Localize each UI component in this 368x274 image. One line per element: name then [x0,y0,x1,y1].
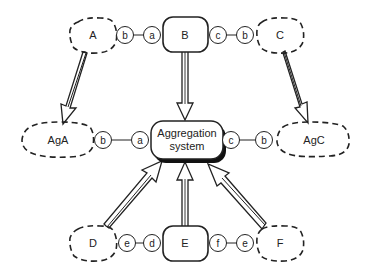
svg-text:b: b [261,135,267,146]
agent-a[interactable]: A [70,18,117,53]
arrow-d-to-aggregation [104,161,162,228]
arrow-f-to-aggregation [208,164,266,229]
arrow-c-to-agc [283,51,308,123]
aggregation-label-line2: system [170,140,205,152]
agent-b-label: B [181,29,188,41]
port-bot-right-2[interactable]: e [237,235,254,252]
port-top-left-2[interactable]: a [144,27,161,44]
aggregate-aga[interactable]: AgA [22,122,94,157]
port-mid-right-2[interactable]: b [256,132,273,149]
agent-d[interactable]: D [70,226,117,261]
arrow-b-to-aggregation [177,52,193,120]
svg-text:e: e [242,238,248,249]
svg-text:c: c [216,30,221,41]
aggregation-label-line1: Aggregation [157,127,216,139]
svg-text:a: a [149,30,155,41]
agent-b[interactable]: B [163,17,208,52]
port-top-right-2[interactable]: b [237,27,254,44]
agent-a-label: A [89,29,97,41]
port-bot-right-1[interactable]: f [210,235,227,252]
svg-text:b: b [242,30,248,41]
port-mid-left-1[interactable]: b [95,132,112,149]
port-bot-left-1[interactable]: e [119,235,136,252]
svg-text:a: a [137,135,143,146]
aggregation-system[interactable]: Aggregation system [151,121,224,160]
agent-f-label: F [277,237,284,249]
port-mid-left-2[interactable]: a [132,132,149,149]
agent-c[interactable]: C [257,18,304,53]
port-bot-left-2[interactable]: d [144,235,161,252]
aggregation-diagram: A b a B c b C AgA b a [0,0,368,274]
arrow-e-to-aggregation [177,162,193,227]
svg-text:e: e [124,238,130,249]
agent-f[interactable]: F [257,226,304,261]
svg-text:b: b [122,30,128,41]
svg-text:c: c [229,135,234,146]
agent-e-label: E [181,237,188,249]
agent-e[interactable]: E [163,226,208,261]
port-top-left-1[interactable]: b [117,27,134,44]
arrow-a-to-aga [61,52,87,124]
aga-label: AgA [48,134,69,146]
svg-text:f: f [217,238,220,249]
port-top-right-1[interactable]: c [210,27,227,44]
agent-d-label: D [89,237,97,249]
svg-text:d: d [149,238,155,249]
agent-c-label: C [276,29,284,41]
agc-label: AgC [303,134,324,146]
port-mid-right-1[interactable]: c [223,132,240,149]
svg-text:b: b [100,135,106,146]
aggregate-agc[interactable]: AgC [277,122,349,157]
